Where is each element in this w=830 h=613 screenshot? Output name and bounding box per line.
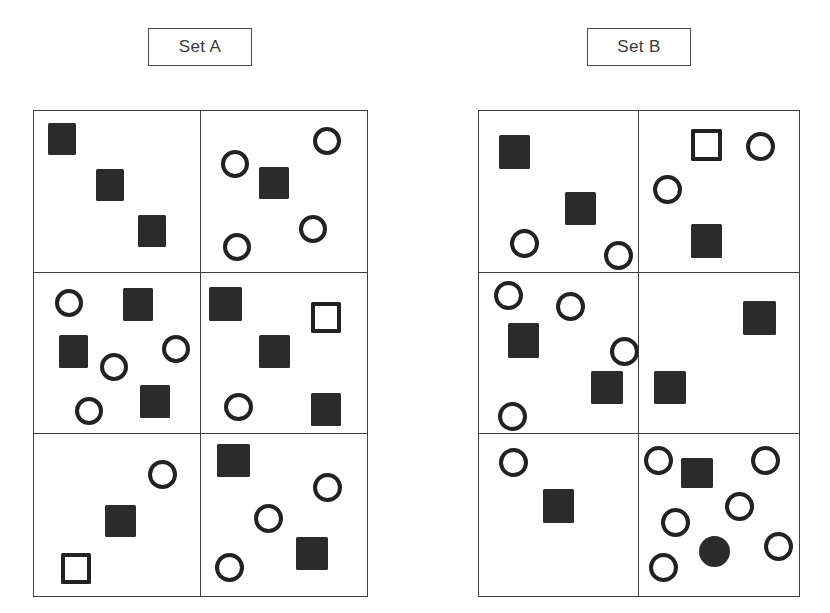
shape-circle-open bbox=[653, 175, 682, 204]
shape-square-filled bbox=[681, 458, 713, 488]
shape-square-filled bbox=[259, 167, 289, 199]
shape-square-filled bbox=[654, 371, 686, 404]
shape-circle-open bbox=[313, 127, 341, 155]
shape-circle-open bbox=[224, 393, 253, 421]
shape-circle-open bbox=[55, 289, 83, 317]
shape-circle-open bbox=[725, 492, 754, 521]
grid-cell-a-r3c1 bbox=[34, 434, 201, 596]
shape-comparison-figure: Set ASet B bbox=[0, 0, 830, 613]
shape-circle-open bbox=[313, 473, 342, 502]
grid-cell-b-r3c2 bbox=[639, 434, 799, 596]
shape-circle-open bbox=[604, 241, 633, 270]
shape-circle-open bbox=[661, 508, 690, 537]
shape-square-filled bbox=[96, 169, 124, 201]
shape-square-filled bbox=[691, 224, 722, 258]
grid-cell-b-r1c1 bbox=[479, 111, 639, 273]
shape-circle-open bbox=[499, 448, 528, 477]
shape-square-filled bbox=[209, 287, 242, 321]
grid-cell-a-r1c1 bbox=[34, 111, 201, 273]
shape-circle-open bbox=[649, 553, 678, 582]
shape-square-filled bbox=[123, 288, 153, 321]
grid-cell-b-r1c2 bbox=[639, 111, 799, 273]
grid-cell-a-r2c2 bbox=[201, 273, 368, 435]
shape-circle-open bbox=[751, 446, 780, 475]
shape-circle-open bbox=[162, 335, 190, 363]
shape-circle-open bbox=[148, 460, 177, 489]
shape-square-filled bbox=[48, 123, 76, 155]
shape-square-filled bbox=[217, 444, 250, 477]
shape-square-filled bbox=[311, 393, 341, 426]
shape-circle-open bbox=[510, 229, 539, 258]
shape-square-open bbox=[61, 553, 91, 584]
panel-set-a bbox=[33, 110, 368, 597]
panel-label-set-b: Set B bbox=[587, 28, 691, 66]
shape-square-open bbox=[311, 302, 341, 333]
shape-circle-open bbox=[75, 397, 103, 425]
shape-square-filled bbox=[138, 215, 166, 247]
shape-circle-open bbox=[610, 337, 639, 366]
shape-square-filled bbox=[296, 537, 328, 570]
shape-square-filled bbox=[499, 135, 530, 169]
panel-set-b bbox=[478, 110, 800, 597]
grid-cell-a-r3c2 bbox=[201, 434, 368, 596]
shape-square-open bbox=[691, 129, 722, 161]
shape-square-filled bbox=[59, 335, 88, 368]
grid-cell-b-r2c2 bbox=[639, 273, 799, 435]
shape-circle-open bbox=[299, 215, 327, 243]
grid-cell-b-r3c1 bbox=[479, 434, 639, 596]
shape-circle-open bbox=[254, 504, 283, 533]
grid-cell-b-r2c1 bbox=[479, 273, 639, 435]
shape-circle-open bbox=[494, 281, 523, 310]
shape-circle-filled bbox=[699, 536, 730, 567]
shape-square-filled bbox=[543, 489, 574, 523]
shape-square-filled bbox=[743, 301, 776, 335]
shape-square-filled bbox=[591, 371, 623, 404]
shape-circle-open bbox=[215, 553, 244, 582]
panel-grid-set-a bbox=[34, 111, 367, 596]
shape-circle-open bbox=[746, 132, 775, 161]
shape-circle-open bbox=[221, 150, 249, 178]
shape-square-filled bbox=[565, 192, 596, 225]
panel-grid-set-b bbox=[479, 111, 799, 596]
grid-cell-a-r2c1 bbox=[34, 273, 201, 435]
shape-circle-open bbox=[556, 292, 585, 321]
shape-circle-open bbox=[100, 353, 128, 381]
shape-square-filled bbox=[105, 505, 136, 537]
shape-circle-open bbox=[223, 233, 251, 261]
shape-circle-open bbox=[498, 402, 527, 431]
shape-square-filled bbox=[140, 385, 170, 418]
shape-square-filled bbox=[259, 335, 290, 368]
panel-label-set-a: Set A bbox=[148, 28, 252, 66]
shape-circle-open bbox=[764, 532, 793, 561]
shape-circle-open bbox=[644, 446, 673, 475]
grid-cell-a-r1c2 bbox=[201, 111, 368, 273]
shape-square-filled bbox=[508, 323, 539, 358]
